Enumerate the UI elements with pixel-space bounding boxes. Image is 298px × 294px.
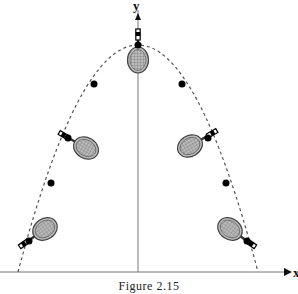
racket-mid-left (54, 123, 103, 163)
racket-lower-right (213, 213, 261, 255)
y-axis-label: y (133, 0, 140, 13)
x-axis-arrow-icon (284, 268, 292, 276)
figure-caption: Figure 2.15 (0, 279, 298, 294)
racket-top (128, 29, 149, 73)
racket-mid-right (173, 121, 222, 161)
up-arrow-icon (135, 13, 141, 20)
x-axis-label: x (293, 265, 298, 280)
racket-lower-left (14, 213, 62, 255)
